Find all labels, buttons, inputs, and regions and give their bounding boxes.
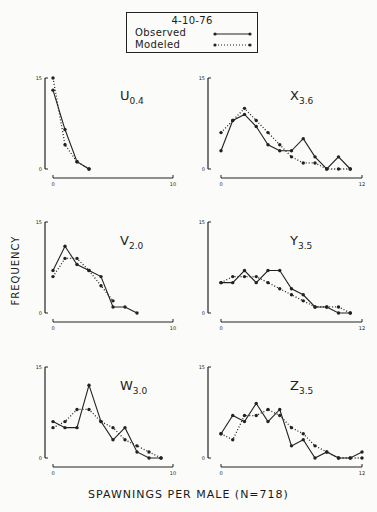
svg-text:0: 0 [39, 166, 42, 172]
svg-text:15: 15 [36, 364, 42, 370]
svg-text:15: 15 [36, 75, 42, 81]
svg-text:0: 0 [219, 470, 222, 476]
svg-text:V2.0: V2.0 [120, 233, 143, 251]
panel-z: 150012Z3.5 [199, 364, 366, 476]
series-modeled [221, 409, 362, 458]
panel-w: 150010W3.0 [36, 364, 177, 476]
panel-v: 150010V2.0 [36, 219, 177, 331]
series-observed [221, 403, 362, 458]
svg-text:0: 0 [202, 310, 205, 316]
figure: 4-10-76 Observed Modeled FREQUENCY SPAWN… [0, 0, 377, 512]
svg-text:0: 0 [51, 470, 54, 476]
svg-text:12: 12 [359, 470, 365, 476]
series-modeled [53, 78, 89, 169]
svg-text:0: 0 [202, 166, 205, 172]
svg-text:0: 0 [219, 181, 222, 187]
svg-text:Z3.5: Z3.5 [290, 378, 313, 396]
svg-text:15: 15 [199, 219, 205, 225]
series-modeled [53, 258, 113, 300]
svg-text:0: 0 [51, 325, 54, 331]
series-observed [221, 114, 350, 169]
svg-text:10: 10 [170, 325, 176, 331]
svg-text:15: 15 [199, 364, 205, 370]
svg-text:0: 0 [39, 455, 42, 461]
svg-text:0: 0 [219, 325, 222, 331]
series-modeled [221, 108, 350, 169]
svg-text:U0.4: U0.4 [120, 88, 144, 106]
series-modeled [221, 277, 350, 313]
svg-text:10: 10 [170, 181, 176, 187]
panel-x: 150012X3.6 [199, 75, 366, 187]
series-observed [53, 246, 137, 313]
panel-u: 150010U0.4 [36, 75, 177, 187]
svg-text:12: 12 [359, 325, 365, 331]
svg-text:12: 12 [359, 181, 365, 187]
svg-text:15: 15 [36, 219, 42, 225]
svg-text:Y3.5: Y3.5 [289, 233, 312, 251]
panels: 150010U0.4150012X3.6150010V2.0150012Y3.5… [0, 0, 377, 512]
series-observed [53, 90, 89, 169]
series-observed [53, 385, 161, 458]
svg-text:W3.0: W3.0 [120, 378, 147, 396]
panel-y: 150012Y3.5 [199, 219, 366, 331]
svg-text:0: 0 [202, 455, 205, 461]
svg-text:15: 15 [199, 75, 205, 81]
svg-text:0: 0 [51, 181, 54, 187]
svg-text:0: 0 [39, 310, 42, 316]
svg-text:10: 10 [170, 470, 176, 476]
svg-text:X3.6: X3.6 [290, 88, 313, 106]
series-modeled [53, 409, 161, 458]
